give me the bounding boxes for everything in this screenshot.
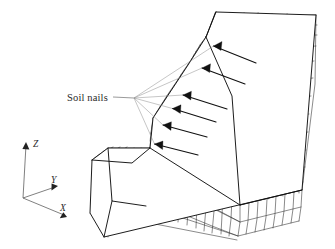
axis-line-x [23,198,64,215]
axis-label-x: X [59,203,67,213]
figure-root: Soil nails Z Y X [0,0,335,249]
axis-label-z: Z [33,139,39,149]
axis-line-y [23,187,55,198]
axis-triad: Z Y X [22,139,67,218]
leader-stem [113,97,134,98]
soil-nails-label: Soil nails [67,92,108,103]
soil-slope-mesh-figure: Soil nails Z Y X [0,0,335,249]
axis-label-y: Y [51,175,58,185]
axis-arrow-x [60,212,67,218]
slope-body-outline [90,12,316,237]
mesh-outline-group [90,12,316,237]
axis-line-z [23,145,26,198]
axis-arrow-z [22,142,29,150]
